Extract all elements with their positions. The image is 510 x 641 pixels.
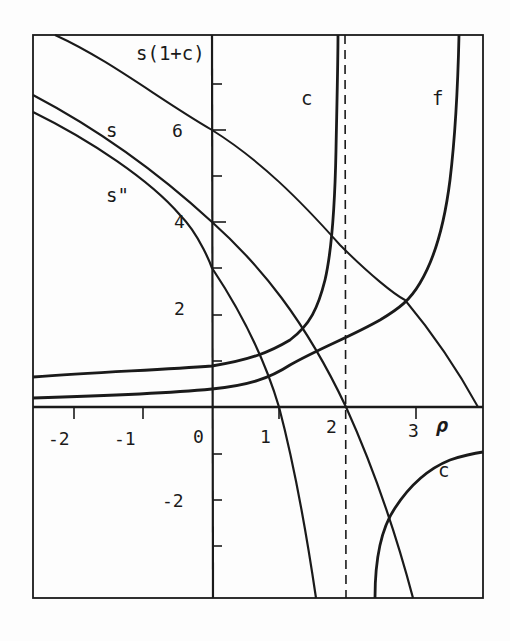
x-tick-labels: -2 -1 0 1 2 3	[48, 416, 419, 449]
x-tick-label: 2	[326, 416, 337, 437]
label-s-double-prime: s"	[106, 184, 129, 206]
label-f: f	[432, 87, 443, 109]
x-tick-label: 0	[193, 426, 204, 447]
x-tick-label: 1	[260, 426, 271, 447]
y-tick-labels: 6 4 2 -2	[162, 120, 185, 511]
dashed-reference-line	[345, 35, 346, 598]
label-c-upper: c	[301, 87, 312, 109]
x-tick-label: -1	[114, 428, 136, 449]
curve-s-double-prime	[33, 112, 316, 598]
x-tick-label: 3	[408, 420, 419, 441]
y-axis	[212, 35, 213, 598]
axis-label-rho: ρ	[435, 413, 449, 437]
curve-s	[33, 95, 413, 598]
y-tick-label: 4	[174, 211, 185, 232]
y-tick-label: 2	[174, 298, 185, 319]
x-tick-label: -2	[48, 428, 70, 449]
label-s: s	[106, 119, 117, 141]
curve-f	[33, 35, 459, 398]
plot-frame	[33, 35, 483, 598]
chart-figure: s(1+c) s s" c f c ρ -2 -1 0 1 2 3 6 4 2 …	[0, 0, 510, 641]
curve-c-upper	[33, 35, 338, 377]
y-tick-label: -2	[162, 490, 184, 511]
chart-svg: s(1+c) s s" c f c ρ -2 -1 0 1 2 3 6 4 2 …	[0, 0, 510, 641]
y-tick-label: 6	[172, 120, 183, 141]
label-c-lower: c	[438, 459, 449, 481]
y-ticks	[212, 84, 226, 546]
x-ticks	[74, 407, 416, 419]
label-s-1-plus-c: s(1+c)	[136, 42, 205, 64]
